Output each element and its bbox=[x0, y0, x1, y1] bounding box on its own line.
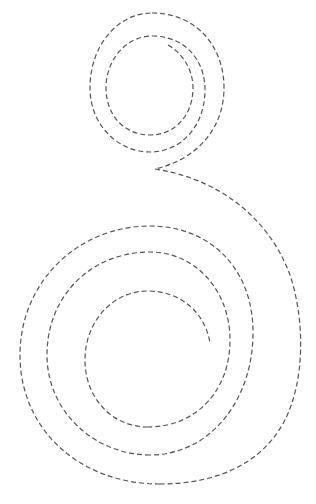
spiral-drawing bbox=[0, 0, 316, 504]
